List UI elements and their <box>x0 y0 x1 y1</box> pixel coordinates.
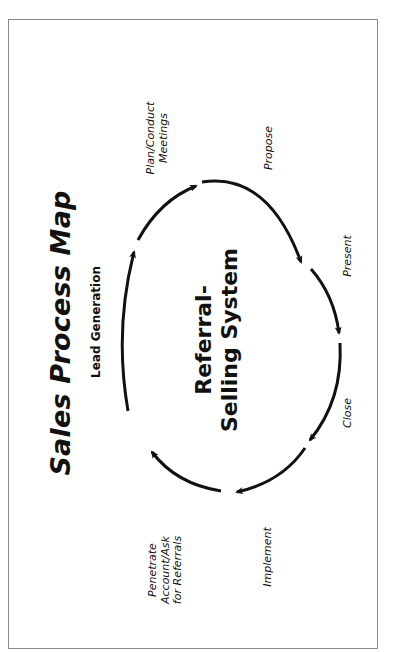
arrow-lead-generation <box>122 252 134 411</box>
arrow-penetrate-account <box>152 452 221 491</box>
step-line: Penetrate <box>147 536 160 604</box>
step-plan-conduct-meetings: Plan/Conduct Meetings <box>145 102 170 175</box>
step-line: Plan/Conduct <box>145 102 158 175</box>
arrow-implement <box>237 448 305 492</box>
center-label: Referral- Selling System <box>191 248 244 432</box>
step-propose: Propose <box>263 126 276 170</box>
center-label-line: Selling System <box>217 248 243 432</box>
step-close: Close <box>342 398 355 428</box>
step-present: Present <box>342 235 355 277</box>
step-line: Meetings <box>158 102 171 175</box>
step-lead-generation: Lead Generation <box>90 266 104 378</box>
step-line: for Referrals <box>172 536 185 604</box>
arrow-plan-conduct-meetings <box>138 186 196 240</box>
step-implement: Implement <box>262 527 275 587</box>
center-label-line: Referral- <box>191 248 217 432</box>
arrow-present <box>311 269 339 333</box>
arrow-close <box>310 343 340 440</box>
step-penetrate-account: Penetrate Account/Ask for Referrals <box>147 536 185 604</box>
page-title: Sales Process Map <box>45 190 76 475</box>
